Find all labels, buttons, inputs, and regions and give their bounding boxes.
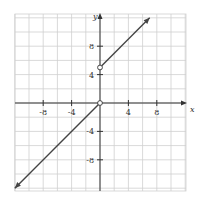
x-tick-label: 8 <box>154 108 159 117</box>
open-circle-point <box>98 65 103 70</box>
piecewise-function-graph: -8-44884-4-8xy <box>0 0 199 199</box>
x-tick-label: -8 <box>39 108 47 117</box>
y-tick-label: -8 <box>86 156 94 165</box>
x-axis-label: x <box>190 105 195 114</box>
y-tick-label: 4 <box>89 71 94 80</box>
y-axis-label: y <box>92 12 98 21</box>
y-tick-label: -4 <box>86 127 94 136</box>
x-tick-label: -4 <box>68 108 76 117</box>
open-circle-point <box>98 101 103 106</box>
x-tick-label: 4 <box>126 108 131 117</box>
y-tick-label: 8 <box>89 42 94 51</box>
